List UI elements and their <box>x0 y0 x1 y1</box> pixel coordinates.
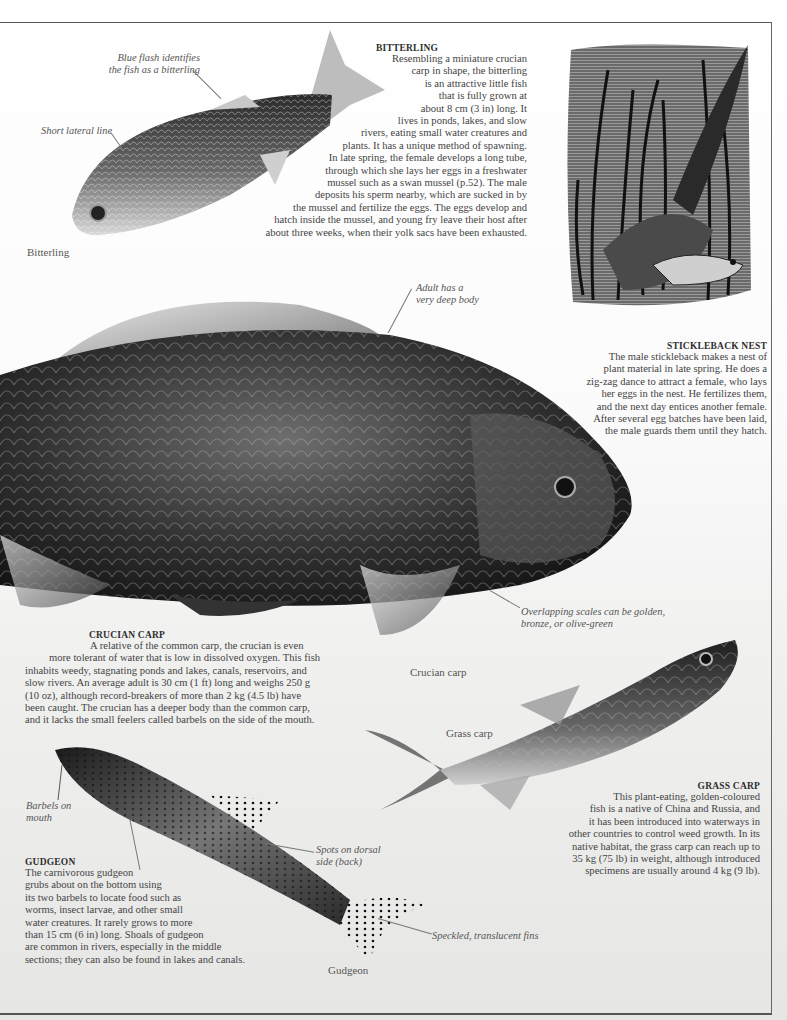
heading-grass-carp: GRASS CARP <box>480 781 760 791</box>
annotation-line: side (back) <box>316 856 381 868</box>
annotation-line: Barbels on <box>26 800 71 812</box>
text-line: mussel such as a swan mussel (p.52). The… <box>240 177 527 189</box>
caption-grass-carp: Grass carp <box>446 727 493 739</box>
grass-carp-text-block: GRASS CARP This plant-eating, golden-col… <box>480 781 760 878</box>
text-line: (10 oz), although record-breakers of mor… <box>25 690 405 702</box>
text-line: specimens are usually around 4 kg (9 lb)… <box>480 865 760 877</box>
annotation-line: Adult has a <box>416 282 479 294</box>
text-line: worms, insect larvae, and other small <box>25 904 285 916</box>
heading-bitterling: BITTERLING <box>376 43 527 53</box>
text-line: lives in ponds, lakes, and slow <box>240 115 527 127</box>
annotation-line: very deep body <box>416 294 479 306</box>
text-line: water creatures. It rarely grows to more <box>25 917 285 929</box>
text-line: fish is a native of China and Russia, an… <box>480 803 760 815</box>
annotation-lateral-line: Short lateral line <box>41 125 112 137</box>
text-line: In late spring, the female develops a lo… <box>240 152 527 164</box>
annotation-line: the fish as a bitterling <box>80 64 200 76</box>
text-line: about 8 cm (3 in) long. It <box>240 103 527 115</box>
text-line: deposits his sperm nearby, which are suc… <box>240 189 527 201</box>
text-line: it has been introduced into waterways in <box>480 816 760 828</box>
text-line: plants. It has a unique method of spawni… <box>240 140 527 152</box>
text-line: grubs about on the bottom using <box>25 879 285 891</box>
bitterling-body: Resembling a miniature crucian carp in s… <box>240 53 527 239</box>
annotation-spots-dorsal: Spots on dorsal side (back) <box>316 844 381 868</box>
text-line: the mussel and fertilize the eggs. The e… <box>240 202 527 214</box>
text-line: that is fully grown at <box>240 90 527 102</box>
heading-gudgeon: GUDGEON <box>25 857 285 867</box>
caption-bitterling: Bitterling <box>27 246 69 258</box>
annotation-overlapping-scales: Overlapping scales can be golden, bronze… <box>521 606 665 630</box>
text-line: slow rivers. An average adult is 30 cm (… <box>25 677 405 689</box>
text-line: sections; they can also be found in lake… <box>25 954 285 966</box>
text-line: carp in shape, the bitterling <box>240 65 527 77</box>
text-line: more tolerant of water that is low in di… <box>25 652 405 664</box>
crucian-text-block: CRUCIAN CARP A relative of the common ca… <box>25 630 405 727</box>
heading-crucian-carp: CRUCIAN CARP <box>89 630 405 640</box>
text-line: Resembling a miniature crucian <box>240 53 527 65</box>
text-line: are common in rivers, especially in the … <box>25 941 285 953</box>
text-line: been caught. The crucian has a deeper bo… <box>25 702 405 714</box>
gudgeon-text-block: GUDGEON The carnivorous gudgeon grubs ab… <box>25 857 285 966</box>
annotation-line: Blue flash identifies <box>80 52 200 64</box>
text-line: than 15 cm (6 in) long. Shoals of gudgeo… <box>25 929 285 941</box>
annotation-deep-body: Adult has a very deep body <box>416 282 479 306</box>
annotation-line: bronze, or olive-green <box>521 618 665 630</box>
text-line: its two barbels to locate food such as <box>25 892 285 904</box>
bitterling-text-block: BITTERLING Resembling a miniature crucia… <box>240 43 527 239</box>
annotation-line: Spots on dorsal <box>316 844 381 856</box>
text-line: 35 kg (75 lb) in weight, although introd… <box>480 853 760 865</box>
text-line: native habitat, the grass carp can reach… <box>480 841 760 853</box>
caption-gudgeon: Gudgeon <box>328 964 368 976</box>
text-line: The carnivorous gudgeon <box>25 867 285 879</box>
text-line: inhabits weedy, stagnating ponds and lak… <box>25 665 405 677</box>
text-line: is an attractive little fish <box>240 78 527 90</box>
text-line: A relative of the common carp, the cruci… <box>25 640 405 652</box>
annotation-barbels: Barbels on mouth <box>26 800 71 824</box>
text-line: about three weeks, when their yolk sacs … <box>240 227 527 239</box>
text-line: rivers, eating small water creatures and <box>240 127 527 139</box>
text-line: other countries to control weed growth. … <box>480 828 760 840</box>
text-line: and it lacks the small feelers called ba… <box>25 714 405 726</box>
annotation-speckled-fins: Speckled, translucent fins <box>432 930 538 942</box>
annotation-blue-flash: Blue flash identifies the fish as a bitt… <box>80 52 200 76</box>
text-line: through which she lays her eggs in a fre… <box>240 165 527 177</box>
text-line: This plant-eating, golden-coloured <box>480 791 760 803</box>
annotation-line: mouth <box>26 812 71 824</box>
text-line: hatch inside the mussel, and young fry l… <box>240 214 527 226</box>
annotation-line: Overlapping scales can be golden, <box>521 606 665 618</box>
crucian-carp-fish-illustration <box>0 265 640 645</box>
